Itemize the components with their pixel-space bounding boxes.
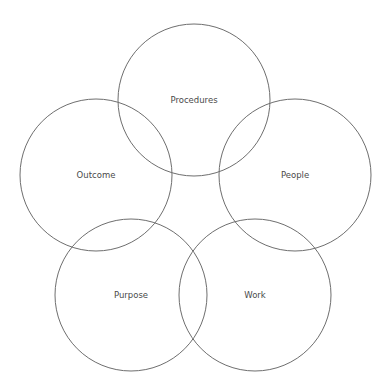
node-work: Work (179, 219, 331, 371)
node-outcome: Outcome (20, 99, 172, 251)
node-people: People (219, 99, 371, 251)
work-label: Work (244, 290, 266, 300)
five-circle-diagram: Procedures Outcome People Purpose Work (0, 0, 388, 388)
node-procedures: Procedures (118, 24, 270, 176)
outcome-label: Outcome (77, 170, 116, 180)
node-purpose: Purpose (55, 219, 207, 371)
procedures-label: Procedures (170, 95, 218, 105)
people-label: People (281, 170, 309, 180)
purpose-label: Purpose (114, 290, 148, 300)
